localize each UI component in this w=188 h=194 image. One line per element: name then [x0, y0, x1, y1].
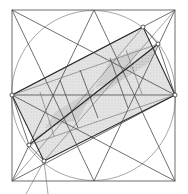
- vertex-marker-top-b: [156, 42, 160, 46]
- geometry-diagram: [0, 0, 188, 194]
- vertex-marker-bottom-b: [42, 159, 46, 163]
- vertex-marker-bottom-a: [27, 143, 31, 147]
- line-vertex-extension: [26, 161, 44, 194]
- vertex-marker-top-a: [141, 25, 145, 29]
- vertex-marker-left: [10, 93, 14, 97]
- vertex-marker-right: [173, 93, 177, 97]
